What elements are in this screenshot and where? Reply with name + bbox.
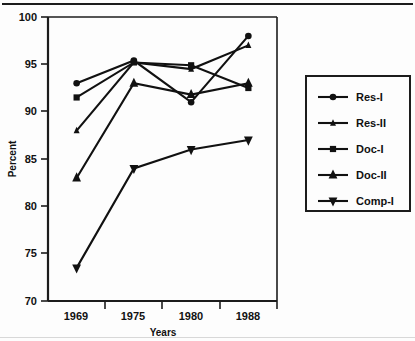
legend-marker-circle-icon (330, 94, 337, 101)
series-res-i (73, 33, 251, 106)
data-point (129, 78, 138, 87)
data-point (188, 99, 195, 106)
line-chart: 100 95 90 85 80 75 70 1969 1975 1980 198… (0, 0, 415, 341)
series-comp-i (72, 137, 253, 274)
x-tick-label: 1975 (121, 310, 145, 322)
data-point (244, 78, 253, 87)
legend-label: Res-II (356, 117, 386, 129)
series-doc-ii (72, 78, 253, 182)
data-point (72, 264, 81, 273)
y-tick-label: 85 (25, 153, 37, 165)
series-line (77, 36, 249, 102)
y-tick-label: 95 (25, 58, 37, 70)
series-line (77, 62, 249, 97)
legend-marker-square-icon (330, 146, 336, 152)
y-tick-label: 100 (19, 11, 37, 23)
data-point (74, 94, 80, 100)
legend: Res-IRes-IIDoc-IDoc-IIComp-I (306, 76, 410, 211)
x-tick-label: 1969 (64, 310, 88, 322)
y-tick-label: 75 (25, 247, 37, 259)
legend-label: Doc-II (356, 169, 387, 181)
data-point (131, 59, 137, 65)
data-point (73, 80, 80, 87)
x-tick-label: 1980 (179, 310, 203, 322)
data-series-layer (72, 33, 253, 274)
x-tick-label: 1988 (236, 310, 260, 322)
series-line (77, 140, 249, 268)
legend-label: Res-I (356, 91, 383, 103)
data-point (188, 62, 194, 68)
legend-label: Doc-I (356, 143, 384, 155)
data-point (245, 42, 251, 48)
y-tick-label: 70 (25, 295, 37, 307)
series-line (77, 83, 249, 178)
y-tick-labels: 100 95 90 85 80 75 70 (19, 11, 37, 307)
y-axis-title: Percent (7, 140, 18, 177)
y-tick-label: 80 (25, 200, 37, 212)
x-axis-ticks (105, 301, 277, 309)
x-axis-title: Years (150, 327, 177, 338)
chart-page: 100 95 90 85 80 75 70 1969 1975 1980 198… (0, 0, 415, 341)
legend-label: Comp-I (356, 195, 394, 207)
data-point (245, 33, 252, 40)
y-tick-label: 90 (25, 105, 37, 117)
x-tick-labels: 1969 1975 1980 1988 (64, 310, 260, 322)
